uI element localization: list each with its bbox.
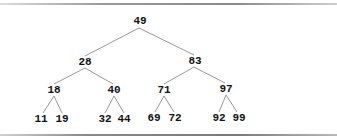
edge-18-19 [54,96,62,113]
node-leaf-8: 99 [232,112,245,124]
edge-28-40 [85,68,113,84]
node-level2-2: 40 [107,84,120,96]
node-level2-4: 97 [219,83,232,95]
node-leaf-3: 32 [98,113,111,125]
edge-71-69 [155,96,164,112]
node-leaf-4: 44 [117,113,131,125]
node-leaf-5: 69 [147,112,160,124]
edge-83-71 [164,67,194,84]
node-leaf-1: 11 [34,113,48,125]
node-level1-left: 28 [78,56,92,68]
node-level1-right: 83 [188,55,202,67]
tree-nodes: 49 28 83 18 40 71 97 11 19 32 44 69 72 9… [34,15,245,125]
edge-40-44 [114,96,124,113]
edge-71-72 [164,96,174,112]
node-leaf-2: 19 [55,113,68,125]
edge-18-11 [43,96,54,113]
node-level2-1: 18 [47,84,61,96]
edge-97-92 [219,95,226,112]
node-level2-3: 71 [157,84,171,96]
node-root: 49 [133,15,146,27]
binary-tree-diagram: 49 28 83 18 40 71 97 11 19 32 44 69 72 9… [0,0,337,139]
edge-28-18 [54,68,85,84]
tree-edges [43,28,237,113]
edge-97-99 [226,95,237,112]
edge-49-28 [85,28,139,56]
node-leaf-6: 72 [168,112,181,124]
edge-83-97 [194,67,225,83]
edge-49-83 [139,28,194,55]
edge-40-32 [105,96,114,113]
bottom-divider [0,134,337,136]
node-leaf-7: 92 [212,112,225,124]
